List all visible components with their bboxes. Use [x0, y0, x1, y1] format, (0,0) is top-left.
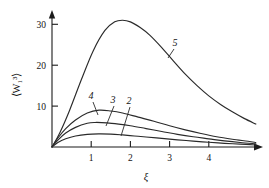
chart-figure: 30 20 10 1 2 3 4 2 3 4	[0, 0, 269, 188]
y-axis-title: ⟨W₁³⟩	[11, 73, 22, 98]
curve-label-3: 3	[110, 94, 116, 105]
leader-line-4	[93, 102, 98, 115]
line-chart-plot: 30 20 10 1 2 3 4 2 3 4	[0, 0, 269, 188]
x-tick-label-4: 4	[206, 153, 211, 163]
y-tick-group: 30 20 10	[37, 20, 59, 112]
curve-label-5: 5	[173, 37, 178, 48]
curve-labels-group: 2 3 4 5	[89, 37, 178, 136]
x-tick-label-1: 1	[89, 153, 94, 163]
y-axis-arrow-icon	[49, 10, 55, 19]
leader-line-5	[168, 49, 174, 58]
x-tick-label-2: 2	[128, 153, 133, 163]
curve-label-2: 2	[127, 95, 132, 106]
curve-label-4: 4	[89, 90, 94, 101]
axis-titles-group: ξ ⟨W₁³⟩	[11, 73, 149, 183]
curve-series-5	[52, 20, 256, 147]
x-tick-label-3: 3	[167, 153, 172, 163]
leader-line-2	[121, 107, 130, 136]
x-axis-title: ξ	[144, 171, 149, 183]
curves-group	[52, 20, 256, 147]
y-tick-label-20: 20	[37, 61, 47, 71]
y-tick-label-10: 10	[37, 102, 47, 112]
y-tick-label-30: 30	[37, 20, 47, 30]
x-tick-group: 1 2 3 4	[89, 141, 212, 163]
